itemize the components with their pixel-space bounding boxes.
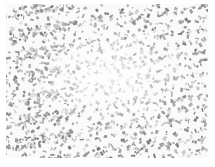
speckle-pattern — [6, 4, 208, 158]
noise-texture-image — [6, 4, 208, 158]
